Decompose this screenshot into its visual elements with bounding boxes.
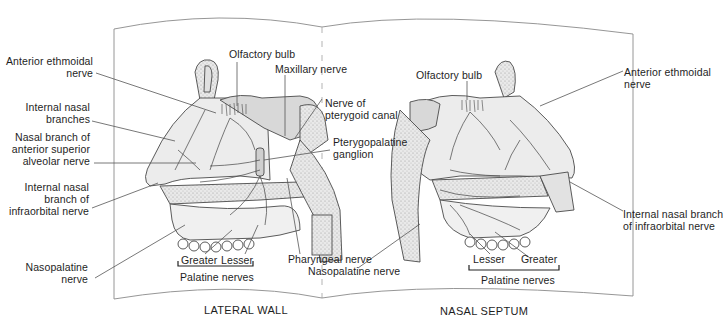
label-nasopalatine-nerve-septum: Nasopalatine nerve xyxy=(308,265,400,277)
nasal-septum-drawing xyxy=(391,61,575,262)
label-internal-nasal-branch-infraorbital-lateral: Internal nasal branch of infraorbital ne… xyxy=(9,181,89,217)
label-palatine-lesser-septum: Lesser xyxy=(473,253,505,265)
label-palatine-nerves-lateral: Palatine nerves xyxy=(180,271,254,283)
caption-nasal-septum: NASAL SEPTUM xyxy=(440,305,528,317)
label-anterior-ethmoidal-nerve-lateral: Anterior ethmoidal nerve xyxy=(6,55,93,79)
label-internal-nasal-branch-infraorbital-septum: Internal nasal branch of infraorbital ne… xyxy=(623,208,723,232)
label-maxillary-nerve: Maxillary nerve xyxy=(275,63,347,75)
label-anterior-ethmoidal-nerve-septum: Anterior ethmoidal nerve xyxy=(624,66,711,90)
label-palatine-greater-septum: Greater xyxy=(521,253,557,265)
label-internal-nasal-branches: Internal nasal branches xyxy=(26,101,90,125)
label-nasal-branch-anterior-superior-alveolar: Nasal branch of anterior superior alveol… xyxy=(12,131,90,167)
label-nerve-of-pterygoid-canal: Nerve of pterygoid canal xyxy=(325,97,398,121)
label-palatine-greater-lateral: Greater xyxy=(181,254,217,266)
label-palatine-lesser-lateral: Lesser xyxy=(221,254,253,266)
label-palatine-nerves-septum: Palatine nerves xyxy=(481,274,555,286)
label-nasopalatine-nerve-lateral: Nasopalatine nerve xyxy=(26,261,89,285)
lateral-wall-drawing xyxy=(145,60,342,262)
caption-lateral-wall: LATERAL WALL xyxy=(204,304,288,316)
label-olfactory-bulb-lateral: Olfactory bulb xyxy=(229,48,295,60)
label-pterygopalatine-ganglion: Pterygopalatine ganglion xyxy=(333,136,407,160)
label-olfactory-bulb-septum: Olfactory bulb xyxy=(416,69,482,81)
label-pharyngeal-nerve: Pharyngeal nerve xyxy=(288,253,372,265)
